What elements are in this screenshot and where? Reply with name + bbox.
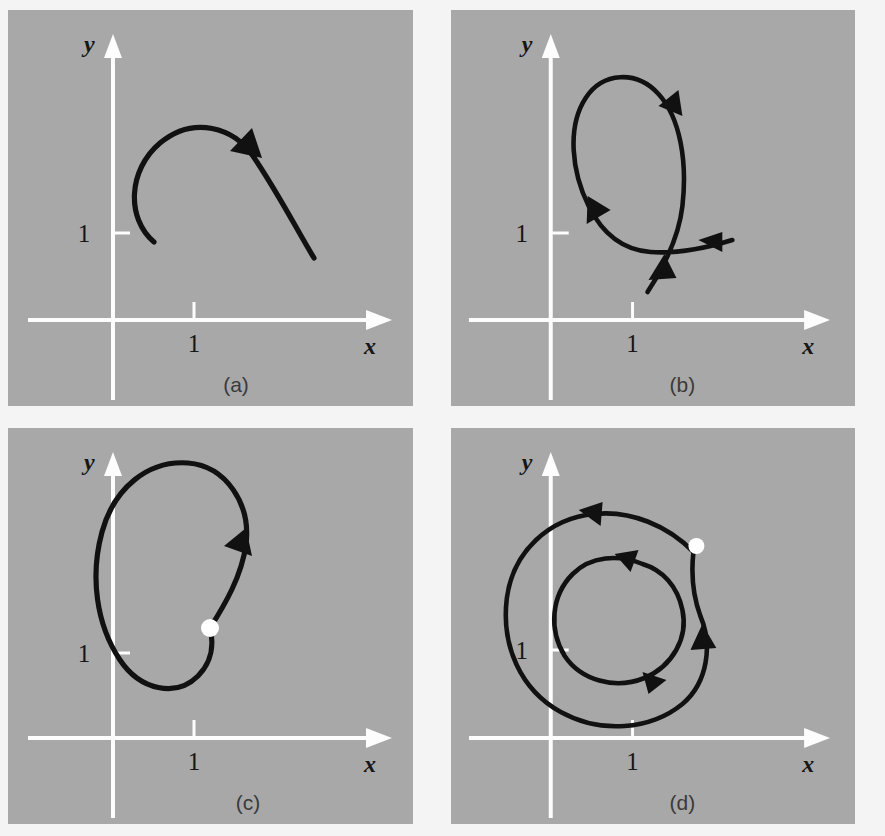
x-tick-label-1: 1 (188, 748, 201, 775)
x-axis-label: x (801, 751, 814, 777)
x-axis-label: x (363, 333, 376, 359)
panel-caption-c: (c) (236, 791, 261, 814)
y-axis-label: y (519, 31, 533, 57)
direction-arrow-d-4 (690, 624, 716, 650)
y-tick-label-1: 1 (78, 220, 91, 247)
y-tick-label-1: 1 (78, 640, 91, 667)
panel-caption-b: (b) (670, 373, 696, 396)
y-axis-label: y (519, 449, 533, 475)
y-axis-label: y (81, 449, 95, 475)
y-axis-label: y (81, 31, 95, 57)
y-axis-arrowhead (542, 452, 560, 476)
curve-c (96, 463, 247, 689)
figure-grid: y x 1 1 (a) (0, 0, 885, 836)
x-tick-label-1: 1 (626, 748, 638, 775)
y-axis-arrowhead (104, 34, 122, 58)
direction-arrow-b-1 (649, 254, 677, 280)
panel-a: y x 1 1 (a) (8, 10, 413, 406)
direction-arrow-a-1 (230, 128, 262, 158)
x-tick-label-1: 1 (626, 330, 638, 357)
panel-wrapper-d: y x 1 1 (d) (443, 418, 885, 836)
y-tick-label-1: 1 (516, 637, 528, 664)
x-axis-label: x (363, 751, 376, 777)
panel-d: y x 1 1 (d) (451, 428, 855, 824)
start-point-dot-d (688, 538, 704, 554)
panel-caption-d: (d) (670, 791, 696, 814)
x-axis-label: x (801, 333, 814, 359)
y-axis-arrowhead (542, 34, 560, 58)
x-axis-arrowhead (804, 728, 830, 748)
plot-b: y x 1 1 (b) (451, 10, 855, 406)
start-point-dot-c (201, 619, 219, 637)
panel-wrapper-a: y x 1 1 (a) (0, 0, 443, 418)
y-tick-label-1: 1 (516, 220, 528, 247)
panel-b: y x 1 1 (b) (451, 10, 855, 406)
curve-a (134, 127, 314, 258)
x-axis-arrowhead (804, 310, 830, 330)
curve-d-inner (554, 558, 683, 683)
plot-d: y x 1 1 (d) (451, 428, 855, 824)
x-tick-label-1: 1 (188, 330, 201, 357)
curve-d-outer (506, 513, 707, 726)
x-axis-arrowhead (366, 310, 392, 330)
panel-c: y x 1 1 (c) (8, 428, 413, 824)
panel-caption-a: (a) (223, 373, 249, 396)
plot-a: y x 1 1 (a) (8, 10, 413, 406)
panel-wrapper-c: y x 1 1 (c) (0, 418, 443, 836)
x-axis-arrowhead (366, 728, 392, 748)
y-axis-arrowhead (104, 452, 122, 476)
panel-wrapper-b: y x 1 1 (b) (443, 0, 885, 418)
plot-c: y x 1 1 (c) (8, 428, 413, 824)
